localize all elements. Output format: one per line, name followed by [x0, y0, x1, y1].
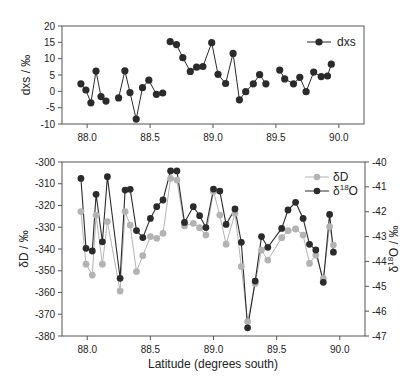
data-point [258, 233, 265, 240]
data-point [216, 188, 223, 195]
x-tick-label: 89.5 [267, 344, 287, 355]
data-point [330, 249, 337, 256]
data-point [223, 221, 230, 228]
data-point [238, 239, 245, 246]
y-tick-label: -45 [372, 281, 387, 292]
x-tick-label: 90.0 [329, 132, 349, 143]
x-tick-label: 89.0 [204, 344, 224, 355]
data-point [127, 186, 134, 193]
d18O-legend-label: δ18O [333, 183, 358, 198]
data-point [324, 72, 331, 79]
data-point [102, 98, 109, 105]
d18O-axis-rest: O / ‰ [387, 226, 401, 257]
dD-y-axis-title: δD / ‰ [17, 230, 31, 267]
data-point [133, 116, 140, 123]
data-point [210, 186, 217, 193]
data-point [281, 75, 288, 82]
data-point [196, 224, 203, 231]
data-point [312, 247, 319, 254]
x-tick-label: 89.5 [266, 132, 286, 143]
isotope-panel: 88.088.589.089.590.0 -380-370-360-350-34… [17, 157, 401, 372]
data-point [77, 80, 84, 87]
data-point [160, 197, 167, 204]
data-point [187, 68, 194, 75]
data-point [133, 268, 140, 275]
data-point [278, 225, 285, 232]
data-point [236, 96, 243, 103]
data-point [126, 89, 133, 96]
x-tick-label: 89.0 [203, 132, 223, 143]
data-point [173, 41, 180, 48]
dxs-legend-marker-icon [315, 38, 322, 45]
x-tick-label: 90.0 [330, 344, 350, 355]
y-tick-label: -340 [35, 244, 55, 255]
y-tick-label: 15 [44, 37, 56, 48]
x-tick-label: 88.0 [77, 132, 97, 143]
data-point [250, 80, 257, 87]
data-point [159, 89, 166, 96]
data-point [89, 272, 96, 279]
data-point [230, 50, 237, 57]
data-point [278, 234, 285, 241]
data-point [87, 99, 94, 106]
data-point [139, 84, 146, 91]
data-point [174, 177, 181, 184]
dxs-y-axis-title: dxs / ‰ [19, 55, 33, 96]
data-point [328, 61, 335, 68]
data-point [320, 279, 327, 286]
y-tick-label: 0 [49, 86, 55, 97]
data-point [174, 168, 181, 175]
data-point [330, 242, 337, 249]
data-point [203, 232, 210, 239]
series-line [81, 171, 334, 328]
data-point [252, 278, 259, 285]
data-point [285, 227, 292, 234]
data-point [196, 212, 203, 219]
latitude-x-axis-title: Latitude (degrees south) [148, 357, 278, 371]
y-tick-label: -43 [372, 231, 387, 242]
data-point [93, 212, 100, 219]
data-point [232, 206, 239, 213]
data-point [115, 94, 122, 101]
data-point [127, 222, 134, 229]
data-point [244, 318, 251, 325]
data-point [78, 208, 85, 215]
dD-legend-label: δD [333, 170, 349, 184]
data-point [82, 86, 89, 93]
y-tick-label: -300 [35, 157, 55, 168]
data-point [310, 69, 317, 76]
data-point [318, 73, 325, 80]
dxs-y-ticks: -10-505101520 [41, 21, 62, 130]
y-tick-label: -370 [35, 309, 55, 320]
data-point [303, 88, 310, 95]
data-point [145, 77, 152, 84]
y-tick-label: -40 [372, 157, 387, 168]
data-point [306, 260, 313, 267]
data-point [93, 191, 100, 198]
y-tick-label: 20 [44, 21, 56, 32]
data-point [216, 212, 223, 219]
data-point [89, 248, 96, 255]
data-point [83, 245, 90, 252]
data-point [122, 208, 129, 215]
x-tick-label: 88.5 [141, 344, 161, 355]
isotope-left-y-ticks: -380-370-360-350-340-330-320-310-300 [35, 157, 62, 342]
y-tick-label: -310 [35, 178, 55, 189]
data-point [139, 234, 146, 241]
data-point [167, 175, 174, 182]
data-point [153, 203, 160, 210]
data-point [99, 238, 106, 245]
data-point [244, 324, 251, 331]
data-point [147, 215, 154, 222]
data-point [147, 233, 154, 240]
data-point [199, 63, 206, 70]
data-point [104, 218, 111, 225]
data-point [290, 80, 297, 87]
y-tick-label: -330 [35, 222, 55, 233]
data-point [193, 64, 200, 71]
y-tick-label: -360 [35, 287, 55, 298]
y-tick-label: -350 [35, 265, 55, 276]
data-point [222, 80, 229, 87]
data-point [258, 247, 265, 254]
y-tick-label: -42 [372, 206, 387, 217]
